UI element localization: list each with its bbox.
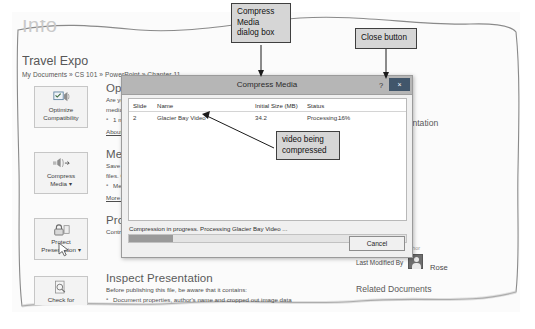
media-list-header: Slide Name Initial Size (MB) Status [129, 99, 406, 112]
compress-media-icon [53, 156, 70, 171]
dialog-title-bar: Compress Media ? × [122, 76, 412, 95]
author-name: Rose [430, 263, 448, 272]
column-header-slide: Slide [133, 102, 147, 109]
progress-bar-fill [129, 235, 173, 242]
tile-label-line1: Optimize [35, 106, 87, 114]
tile-label-line1: Check for [35, 296, 87, 304]
tile-label-line1: Compress [35, 172, 87, 180]
optimize-compatibility-icon [53, 90, 70, 105]
related-documents-heading: Related Documents [356, 284, 431, 294]
cell-percent: 16% [338, 114, 350, 121]
cell-size: 34.2 [255, 114, 267, 121]
inspect-presentation-icon [53, 280, 70, 295]
info-heading: Info [22, 20, 57, 37]
cell-slide: 2 [133, 114, 136, 121]
cell-name: Glacier Bay Video [157, 114, 206, 121]
mouse-cursor-icon [58, 242, 70, 258]
dialog-title: Compress Media [122, 80, 412, 89]
section-heading: Inspect Presentation [106, 272, 406, 284]
callout-compress-media-dialog: Compress Media dialog box [231, 3, 291, 43]
cancel-button[interactable]: Cancel [349, 236, 405, 251]
tile-label-line2: Issues ▾ [35, 304, 87, 305]
media-list[interactable]: Slide Name Initial Size (MB) Status 2 Gl… [128, 98, 407, 221]
protect-presentation-icon [53, 222, 70, 237]
compress-media-dialog[interactable]: Compress Media ? × Slide Name Initial Si… [121, 75, 413, 258]
help-button[interactable]: ? [376, 80, 386, 91]
check-for-issues-button[interactable]: Check for Issues ▾ [34, 276, 88, 305]
callout-close-button: Close button [355, 28, 417, 49]
callout-video-being-compressed: video being compressed [276, 131, 340, 160]
column-header-status: Status [307, 102, 324, 109]
document-title: Travel Expo [22, 54, 88, 68]
column-header-size: Initial Size (MB) [255, 102, 298, 109]
screenshot-root: Info Travel Expo My Documents » CS 101 »… [0, 0, 535, 329]
compress-media-button[interactable]: Compress Media ▾ [34, 152, 88, 194]
cell-status: Processing... [307, 114, 342, 121]
tile-label-line2: Compatibility [35, 114, 87, 122]
optimize-compatibility-button[interactable]: Optimize Compatibility [34, 86, 88, 128]
close-button[interactable]: × [389, 78, 410, 91]
tile-label-line2: Media ▾ [35, 180, 87, 188]
compression-status-text: Compression in progress. Processing Glac… [129, 225, 287, 232]
column-header-name: Name [157, 102, 173, 109]
last-modified-by-label: Last Modified By [356, 259, 403, 266]
section-bullet: Document properties, author's name and c… [113, 296, 406, 304]
